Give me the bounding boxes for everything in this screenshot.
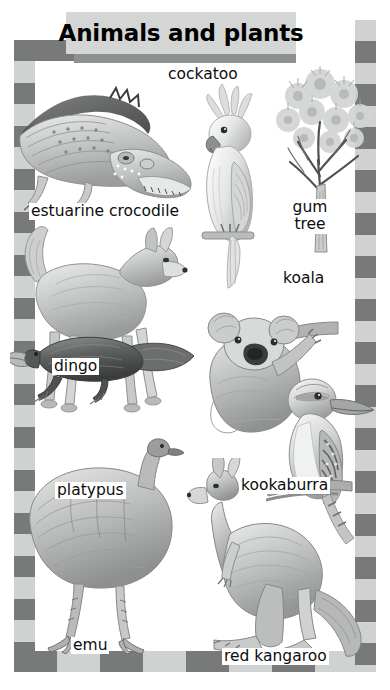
illustration-plate (20, 58, 370, 654)
caption-kookaburra: kookaburra (239, 477, 330, 494)
cockatoo-illustration (180, 82, 276, 294)
caption-estuarine-crocodile: estuarine crocodile (29, 203, 181, 220)
caption-emu: emu (71, 637, 109, 654)
caption-cockatoo: cockatoo (166, 66, 240, 83)
caption-platypus: platypus (55, 482, 126, 499)
caption-gum-tree-line2: tree (294, 215, 325, 233)
caption-dingo: dingo (52, 358, 99, 375)
estuarine-crocodile-illustration (14, 74, 204, 214)
title-banner: Animals and plants (66, 12, 296, 54)
caption-gum-tree-line1: gum (293, 198, 328, 216)
page-title: Animals and plants (59, 20, 304, 46)
caption-red-kangaroo: red kangaroo (222, 648, 329, 665)
caption-gum-tree: gumtree (281, 199, 339, 234)
platypus-illustration (10, 312, 200, 412)
page-root: Animals and plants (0, 0, 390, 690)
caption-koala: koala (281, 270, 326, 287)
